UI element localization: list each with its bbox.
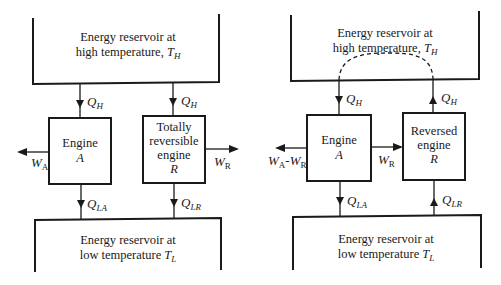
q-symbol: Q — [87, 196, 96, 211]
w-symbol: W — [31, 155, 42, 170]
label-text: low temperature — [80, 248, 165, 262]
symbol-t: T — [167, 45, 174, 59]
left-qh-r-label: QH — [181, 93, 197, 110]
label-line: engine — [143, 148, 205, 162]
label-text: high temperature, — [333, 41, 424, 55]
q-symbol: Q — [347, 193, 356, 208]
q-sub: LR — [451, 199, 462, 209]
label-line: engine — [403, 138, 465, 152]
label-line: Energy reservoir at — [58, 233, 198, 248]
q-sub: H — [96, 101, 103, 111]
right-qla-label: QLA — [347, 193, 367, 210]
label-line: low temperature TL — [58, 248, 198, 267]
right-qlr-label: QLR — [442, 192, 462, 209]
label-text: low temperature — [338, 247, 423, 261]
label-line: low temperature TL — [316, 247, 456, 266]
symbol-sub: H — [174, 51, 181, 61]
w-symbol: W — [268, 153, 279, 168]
q-symbol: Q — [181, 93, 190, 108]
q-sub: LA — [356, 200, 367, 210]
symbol-sub: L — [171, 254, 176, 264]
label-text: high temperature, — [76, 45, 167, 59]
label-line: Reversed — [403, 124, 465, 138]
left-qh-a-label: QH — [87, 94, 103, 111]
label-line: A — [49, 151, 111, 166]
left-wa-label: WA — [31, 155, 48, 172]
right-engine-r-label: Reversed engine R — [403, 124, 465, 166]
symbol-sub: H — [431, 47, 438, 57]
label-line: Totally — [143, 120, 205, 134]
label-line: Engine — [307, 133, 371, 148]
w-symbol: W — [214, 154, 225, 169]
q-symbol: Q — [87, 94, 96, 109]
symbol-sub: L — [429, 253, 434, 263]
label-line: Energy reservoir at — [316, 232, 456, 247]
label-line: Energy reservoir at — [315, 26, 455, 41]
w-symbol: W — [290, 153, 301, 168]
w-sub: R — [225, 161, 231, 171]
w-sub: A — [42, 162, 49, 172]
left-qla-label: QLA — [87, 196, 107, 213]
q-sub: H — [355, 98, 362, 108]
right-high-reservoir-label: Energy reservoir at high temperature, TH — [315, 26, 455, 60]
label-line: R — [403, 152, 465, 166]
q-symbol: Q — [346, 91, 355, 106]
symbol-t: T — [424, 41, 431, 55]
q-sub: LR — [190, 202, 201, 212]
w-sub: R — [389, 159, 395, 169]
q-symbol: Q — [181, 195, 190, 210]
right-wnet-label: WA-WR — [268, 153, 307, 170]
left-low-reservoir-label: Energy reservoir at low temperature TL — [58, 233, 198, 267]
right-engine-a-label: Engine A — [307, 133, 371, 163]
left-engine-r-label: Totally reversible engine R — [143, 120, 205, 176]
left-high-reservoir-label: Energy reservoir at high temperature, TH — [58, 30, 198, 64]
right-qh-a-label: QH — [346, 91, 362, 108]
label-line: Energy reservoir at — [58, 30, 198, 45]
label-line: R — [143, 162, 205, 176]
label-line: high temperature, TH — [58, 45, 198, 64]
left-wr-label: WR — [214, 154, 231, 171]
right-wr-label: WR — [378, 152, 395, 169]
q-symbol: Q — [441, 90, 450, 105]
q-sub: LA — [96, 203, 107, 213]
q-sub: H — [190, 100, 197, 110]
left-engine-a-label: Engine A — [49, 136, 111, 166]
label-line: reversible — [143, 134, 205, 148]
w-sub: R — [301, 160, 307, 170]
left-qlr-label: QLR — [181, 195, 201, 212]
right-qh-r-label: QH — [441, 90, 457, 107]
q-symbol: Q — [442, 192, 451, 207]
right-low-reservoir-label: Energy reservoir at low temperature TL — [316, 232, 456, 266]
label-line: A — [307, 148, 371, 163]
label-line: Engine — [49, 136, 111, 151]
label-line: high temperature, TH — [315, 41, 455, 60]
q-sub: H — [450, 97, 457, 107]
w-symbol: W — [378, 152, 389, 167]
